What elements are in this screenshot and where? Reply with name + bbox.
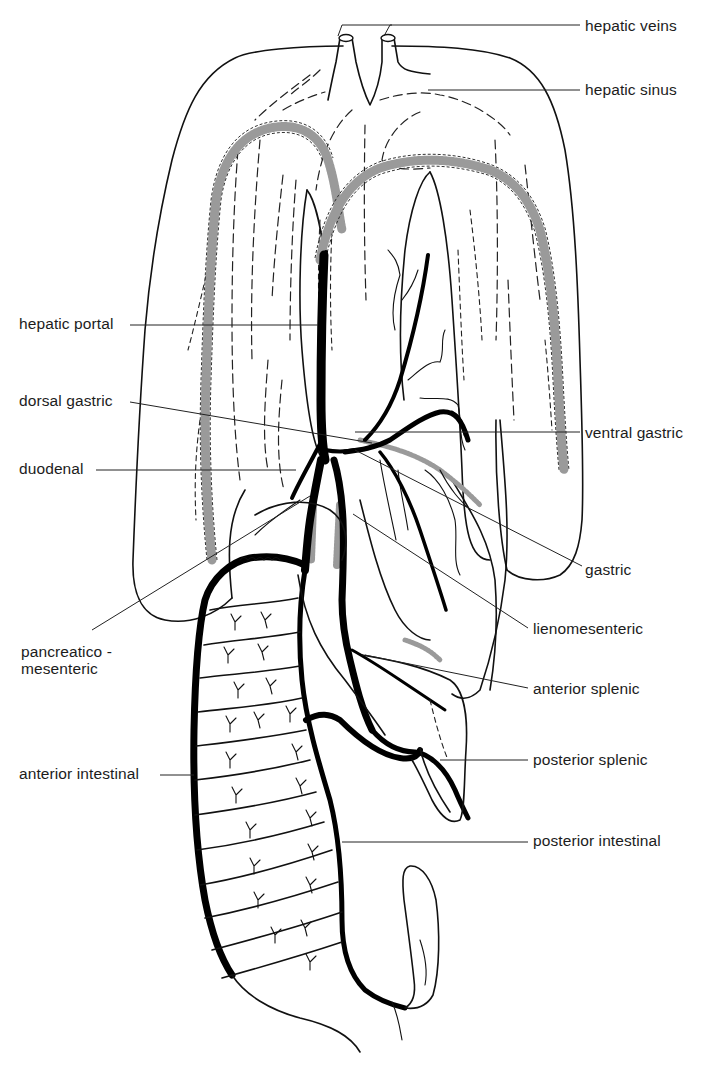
- hepatic-portal-diagram: [0, 0, 708, 1070]
- label-hepatic-sinus: hepatic sinus: [585, 81, 677, 99]
- liver-outline: [133, 35, 583, 691]
- label-gastric: gastric: [585, 561, 631, 579]
- label-anterior-intestinal: anterior intestinal: [19, 765, 139, 783]
- label-hepatic-veins: hepatic veins: [585, 17, 677, 35]
- leader-hepatic-veins: [384, 25, 580, 36]
- label-dorsal-gastric: dorsal gastric: [19, 392, 113, 410]
- label-hepatic-portal: hepatic portal: [19, 315, 113, 333]
- label-anterior-splenic: anterior splenic: [533, 680, 640, 698]
- label-posterior-intestinal: posterior intestinal: [533, 832, 661, 850]
- label-posterior-splenic: posterior splenic: [533, 751, 648, 769]
- label-lienomesenteric: lienomesenteric: [533, 620, 643, 638]
- intestine: [195, 420, 507, 1052]
- label-duodenal: duodenal: [19, 460, 84, 478]
- label-ventral-gastric: ventral gastric: [585, 424, 683, 442]
- leader-dorsal-gastric: [130, 402, 372, 443]
- label-pancreatico-mesenteric: pancreatico - mesenteric: [21, 643, 112, 677]
